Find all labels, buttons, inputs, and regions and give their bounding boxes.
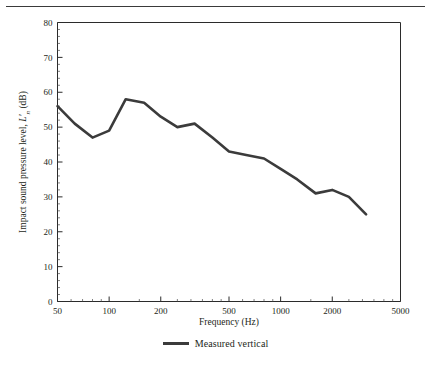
svg-text:200: 200 [154, 306, 168, 316]
chart-legend: Measured vertical [0, 338, 431, 349]
chart-axes [58, 23, 401, 302]
chart-series-lines [58, 99, 367, 214]
svg-text:70: 70 [44, 53, 54, 63]
svg-text:100: 100 [102, 306, 116, 316]
chart-tick-marks [58, 23, 401, 302]
chart-tick-labels: 0102030405060708050100200500100020005000 [44, 18, 411, 316]
svg-text:5000: 5000 [392, 306, 411, 316]
line-chart-plot: 0102030405060708050100200500100020005000… [0, 0, 431, 367]
chart-axis-titles: Frequency (Hz)Impact sound pressure leve… [18, 91, 259, 328]
svg-text:20: 20 [44, 227, 54, 237]
legend-line-swatch [163, 342, 189, 345]
svg-text:50: 50 [44, 122, 54, 132]
svg-text:500: 500 [222, 306, 236, 316]
svg-text:Frequency (Hz): Frequency (Hz) [199, 317, 259, 328]
svg-text:Impact sound pressure level, L: Impact sound pressure level, L′n (dB) [18, 91, 32, 233]
svg-text:50: 50 [53, 306, 63, 316]
svg-text:2000: 2000 [323, 306, 342, 316]
svg-text:10: 10 [44, 262, 54, 272]
svg-text:30: 30 [44, 192, 54, 202]
svg-text:1000: 1000 [272, 306, 291, 316]
svg-text:80: 80 [44, 18, 54, 28]
chart-figure: 0102030405060708050100200500100020005000… [0, 0, 431, 367]
svg-text:60: 60 [44, 87, 54, 97]
legend-label-measured-vertical: Measured vertical [195, 338, 269, 349]
svg-text:40: 40 [44, 157, 54, 167]
